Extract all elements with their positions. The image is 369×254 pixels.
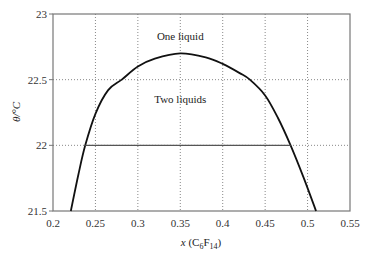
annotations: One liquidTwo liquids [154,30,206,105]
y-tick-label: 23 [36,8,48,20]
x-axis-ticks: 0.20.250.30.350.40.450.50.55 [46,217,360,229]
x-tick-label: 0.45 [256,217,276,229]
x-tick-label: 0.4 [216,217,230,229]
x-tick-label: 0.25 [86,217,106,229]
phase-diagram-chart: 0.20.250.30.350.40.450.50.55 21.52222.52… [0,0,369,254]
x-tick-label: 0.3 [131,217,145,229]
x-tick-label: 0.55 [340,217,360,229]
data-series [71,53,316,211]
coexistence-curve [71,53,316,211]
x-axis-label: x (C6F14) [180,236,222,251]
y-tick-label: 22 [36,139,47,151]
x-tick-label: 0.35 [171,217,191,229]
y-axis-ticks: 21.52222.523 [28,8,53,217]
x-tick-label: 0.5 [301,217,315,229]
y-tick-label: 21.5 [28,205,48,217]
x-tick-label: 0.2 [46,217,60,229]
region-annotation: One liquid [157,30,204,42]
y-axis-label: θ/°C [10,101,22,122]
y-tick-label: 22.5 [28,74,48,86]
region-annotation: Two liquids [154,93,206,105]
